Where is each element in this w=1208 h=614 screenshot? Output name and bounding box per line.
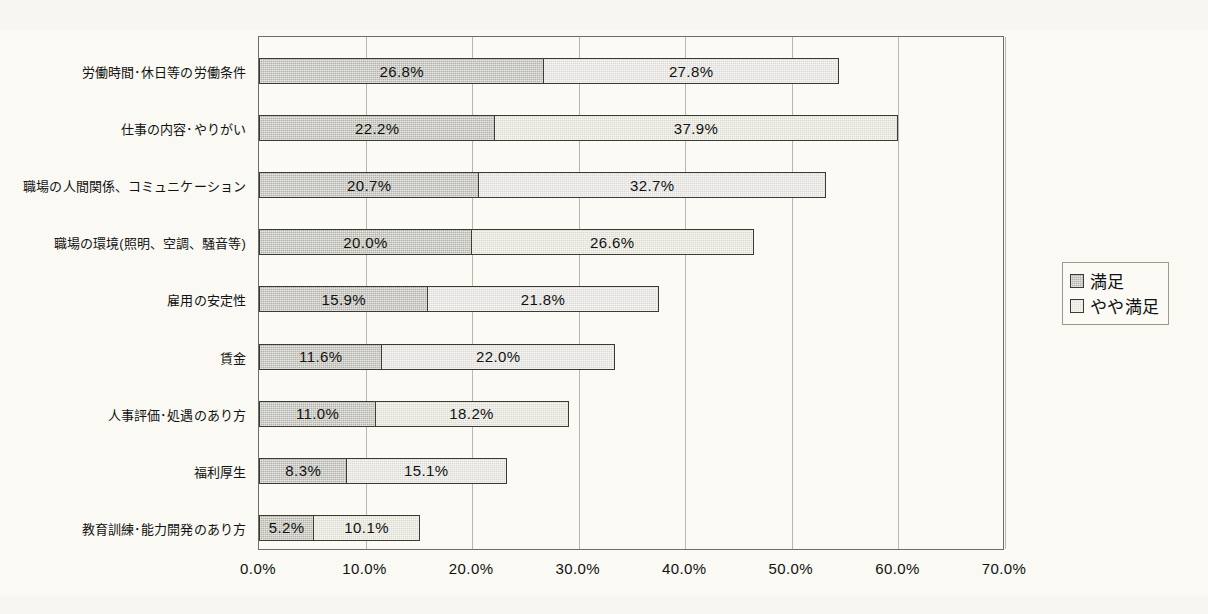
bar-row[interactable]: 20.0%26.6% — [259, 229, 754, 255]
x-tick-label: 40.0% — [644, 560, 724, 577]
bar-value-label: 20.7% — [347, 177, 392, 194]
bar-value-label: 18.2% — [449, 405, 494, 422]
bar-row[interactable]: 26.8%27.8% — [259, 58, 839, 84]
bar-row[interactable]: 20.7%32.7% — [259, 172, 826, 198]
gridline — [792, 37, 793, 549]
bar-row[interactable]: 8.3%15.1% — [259, 458, 507, 484]
bar-segment[interactable]: 18.2% — [375, 401, 569, 427]
bar-segment[interactable]: 5.2% — [259, 515, 314, 541]
bar-segment[interactable]: 32.7% — [478, 172, 826, 198]
bar-row[interactable]: 15.9%21.8% — [259, 286, 659, 312]
x-tick-label: 30.0% — [538, 560, 618, 577]
legend-item-label: やや満足 — [1090, 293, 1159, 318]
gridline — [685, 37, 686, 549]
bar-segment[interactable]: 37.9% — [494, 115, 898, 141]
x-tick-label: 10.0% — [325, 560, 405, 577]
bar-value-label: 20.0% — [343, 234, 388, 251]
bar-row[interactable]: 11.0%18.2% — [259, 401, 569, 427]
gridline — [1005, 37, 1006, 549]
bar-segment[interactable]: 26.8% — [259, 58, 545, 84]
bar-segment[interactable]: 21.8% — [427, 286, 659, 312]
legend-item[interactable]: やや満足 — [1070, 293, 1159, 318]
bar-value-label: 5.2% — [269, 519, 305, 536]
bar-segment[interactable]: 8.3% — [259, 458, 347, 484]
bar-value-label: 11.0% — [296, 405, 339, 422]
x-tick-label: 50.0% — [751, 560, 831, 577]
bar-segment[interactable]: 15.1% — [346, 458, 507, 484]
gridline — [898, 37, 899, 549]
legend-item-label: 満足 — [1090, 268, 1125, 293]
x-tick-label: 60.0% — [857, 560, 937, 577]
bar-value-label: 22.0% — [476, 348, 521, 365]
plot-area: 26.8%27.8%22.2%37.9%20.7%32.7%20.0%26.6%… — [258, 36, 1004, 550]
bar-segment[interactable]: 10.1% — [313, 515, 421, 541]
bar-segment[interactable]: 20.0% — [259, 229, 472, 255]
chart-title — [0, 0, 1208, 3]
bar-row[interactable]: 11.6%22.0% — [259, 344, 615, 370]
bar-segment[interactable]: 11.6% — [259, 344, 383, 370]
bar-value-label: 8.3% — [285, 462, 321, 479]
category-label: 賃金 — [0, 348, 246, 367]
legend-swatch-icon — [1070, 274, 1084, 288]
category-label: 雇用の安定性 — [0, 290, 246, 309]
bar-value-label: 22.2% — [355, 120, 400, 137]
bar-segment[interactable]: 15.9% — [259, 286, 428, 312]
bar-value-label: 26.8% — [380, 63, 425, 80]
x-tick-label: 70.0% — [964, 560, 1044, 577]
bar-segment[interactable]: 27.8% — [543, 58, 839, 84]
bar-row[interactable]: 22.2%37.9% — [259, 115, 898, 141]
bar-value-label: 11.6% — [299, 348, 342, 365]
bar-segment[interactable]: 26.6% — [471, 229, 754, 255]
bar-segment[interactable]: 20.7% — [259, 172, 480, 198]
bar-value-label: 10.1% — [344, 519, 389, 536]
bar-segment[interactable]: 22.2% — [259, 115, 496, 141]
bar-row[interactable]: 5.2%10.1% — [259, 515, 420, 541]
x-tick-label: 0.0% — [218, 560, 298, 577]
bar-segment[interactable]: 22.0% — [381, 344, 615, 370]
bar-value-label: 15.1% — [404, 462, 449, 479]
category-label: 労働時間･休日等の労働条件 — [0, 62, 246, 81]
category-label: 福利厚生 — [0, 462, 246, 481]
category-label: 職場の人間関係、コミュニケーション — [0, 176, 246, 195]
category-label: 仕事の内容･やりがい — [0, 119, 246, 138]
stacked-bar-chart: 26.8%27.8%22.2%37.9%20.7%32.7%20.0%26.6%… — [0, 0, 1208, 614]
bar-value-label: 15.9% — [321, 291, 366, 308]
x-tick-label: 20.0% — [431, 560, 511, 577]
legend-swatch-icon — [1070, 299, 1084, 313]
bar-value-label: 26.6% — [590, 234, 635, 251]
bar-segment[interactable]: 11.0% — [259, 401, 376, 427]
bar-value-label: 32.7% — [630, 177, 675, 194]
bar-value-label: 21.8% — [521, 291, 566, 308]
bar-value-label: 37.9% — [674, 120, 719, 137]
legend-item[interactable]: 満足 — [1070, 268, 1159, 293]
bar-value-label: 27.8% — [669, 63, 714, 80]
category-label: 教育訓練･能力開発のあり方 — [0, 519, 246, 538]
chart-legend: 満足 やや満足 — [1062, 262, 1169, 325]
category-label: 職場の環境(照明、空調、騒音等) — [0, 233, 246, 252]
category-label: 人事評価･処遇のあり方 — [0, 405, 246, 424]
